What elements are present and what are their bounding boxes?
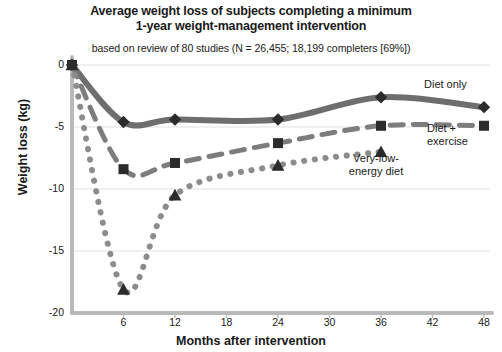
series-label-vled-line2: energy diet <box>334 165 418 178</box>
series-label-very-low-energy-diet: Very-low- energy diet <box>334 152 418 178</box>
data-point-marker <box>169 113 181 125</box>
series-group <box>66 59 491 295</box>
chart-plot <box>0 0 502 352</box>
gridlines <box>72 65 490 251</box>
data-point-marker <box>170 158 180 168</box>
data-point-marker <box>273 138 283 148</box>
series-label-diet-exercise-line2: exercise <box>427 135 468 148</box>
series-label-diet-exercise: Diet + exercise <box>427 122 468 148</box>
data-point-marker <box>479 121 489 131</box>
data-point-marker <box>375 91 387 103</box>
data-point-marker <box>119 164 129 174</box>
chart-root: Average weight loss of subjects completi… <box>0 0 502 352</box>
data-point-marker <box>272 113 284 125</box>
axis-lines <box>72 57 492 313</box>
series-diet-only <box>66 59 490 128</box>
series-line <box>72 65 381 293</box>
series-label-vled-line1: Very-low- <box>334 152 418 165</box>
series-label-diet-only: Diet only <box>424 78 467 91</box>
data-point-marker <box>376 121 386 131</box>
data-point-marker <box>478 101 490 113</box>
series-label-diet-exercise-line1: Diet + <box>427 122 468 135</box>
